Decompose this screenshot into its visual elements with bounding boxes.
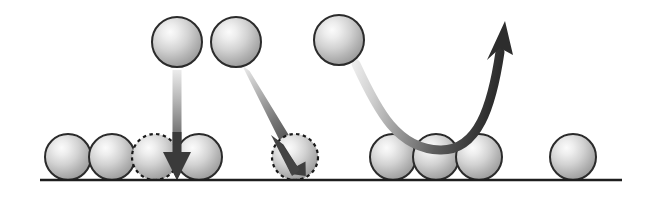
incident-atom-row — [152, 15, 364, 67]
surface-atom-1 — [45, 134, 91, 180]
incident-atom-3 — [314, 15, 364, 65]
surface-atom-5 — [413, 134, 459, 180]
surface-atom-7 — [550, 134, 596, 180]
surface-atom-row — [45, 134, 596, 180]
incident-atom-1 — [152, 17, 202, 67]
deposition-diagram — [0, 0, 656, 198]
incident-atom-2 — [211, 17, 261, 67]
diagram-canvas — [0, 0, 656, 198]
reflection-curved-arrow — [356, 21, 513, 150]
surface-atom-2 — [89, 134, 135, 180]
